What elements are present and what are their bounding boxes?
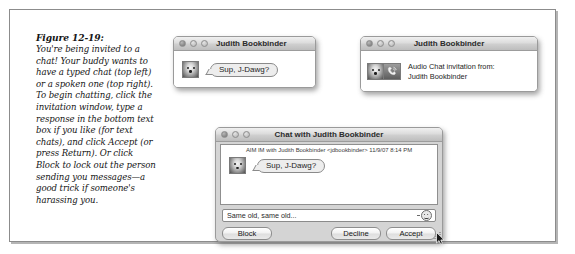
typed-invite-body: Sup, J-Dawg? [174, 51, 315, 88]
decline-button[interactable]: Decline [331, 227, 381, 240]
minimize-icon[interactable] [190, 40, 197, 47]
chat-button-row: Block Decline Accept [222, 227, 436, 240]
audio-invite-body: Audio Chat invitation from: Judith Bookb… [361, 51, 537, 92]
chat-message-bubble: Sup, J-Dawg? [257, 159, 325, 173]
audio-invite-title: Judith Bookbinder [361, 39, 537, 48]
audio-invite-titlebar[interactable]: Judith Bookbinder [361, 37, 537, 51]
close-icon[interactable] [179, 40, 186, 47]
chat-input-field[interactable]: Same old, same old... [227, 211, 417, 220]
audio-chat-invitation-window[interactable]: Judith Bookbinder Audio Chat invitation … [360, 36, 538, 92]
buddy-picture-icon [229, 157, 246, 174]
figure-frame: Figure 12-19: You're being invited to a … [9, 9, 556, 242]
chat-transcript[interactable]: AIM IM with Judith Bookbinder <jdbookbin… [220, 144, 438, 205]
audio-invite-icons [367, 63, 401, 80]
smiley-menu-dash [417, 215, 420, 216]
buddy-picture-icon [182, 61, 199, 78]
chat-window-title: Chat with Judith Bookbinder [216, 130, 442, 139]
chat-transcript-header: AIM IM with Judith Bookbinder <jdbookbin… [221, 145, 437, 154]
zoom-icon[interactable] [201, 40, 208, 47]
typed-invite-message: Sup, J-Dawg? [210, 63, 278, 77]
phone-audio-icon [384, 63, 401, 80]
buddy-picture-icon [367, 63, 384, 80]
accept-button[interactable]: Accept [386, 227, 436, 240]
figure-caption-title: Figure 12-19: [36, 32, 156, 44]
figure-caption-body: You're being invited to a chat! Your bud… [36, 44, 156, 206]
figure-caption: Figure 12-19: You're being invited to a … [36, 32, 156, 206]
audio-invite-line1: Audio Chat invitation from: [408, 62, 495, 71]
typed-invite-title: Judith Bookbinder [216, 39, 287, 48]
smiley-face-icon[interactable] [421, 210, 432, 221]
chat-window[interactable]: Chat with Judith Bookbinder AIM IM with … [215, 127, 443, 242]
typed-invite-titlebar[interactable]: Judith Bookbinder [174, 37, 315, 51]
chat-window-titlebar[interactable]: Chat with Judith Bookbinder [216, 128, 442, 142]
traffic-light-buttons[interactable] [179, 40, 208, 47]
audio-invite-text: Audio Chat invitation from: Judith Bookb… [408, 62, 495, 81]
audio-invite-line2: Judith Bookbinder [408, 72, 467, 81]
chat-message-row: Sup, J-Dawg? [221, 154, 437, 174]
typed-chat-invitation-window[interactable]: Judith Bookbinder Sup, J-Dawg? [173, 36, 316, 88]
resize-grow-handle[interactable] [432, 231, 441, 240]
block-button[interactable]: Block [222, 227, 272, 240]
chat-input-row[interactable]: Same old, same old... [222, 209, 436, 222]
